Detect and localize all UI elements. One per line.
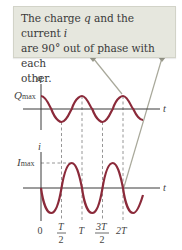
callout-line-1: The charge q and the current i (21, 11, 169, 41)
i-axis-label: i (38, 141, 41, 152)
callout-box: The charge q and the current i are 90° o… (13, 6, 176, 58)
tick-half-T-den: 2 (59, 234, 64, 245)
tick-T: T (79, 225, 86, 236)
callout-line-3: other. (21, 71, 169, 86)
i-time-label: t (163, 182, 167, 193)
tick-2T: 2T (116, 225, 128, 236)
callout-line-2: are 90° out of phase with each (21, 41, 169, 71)
lc-oscillation-diagram: q t Qmax i t Imax 0 T 2 T 3T 2 2T The ch… (0, 0, 182, 250)
qmax-label: Qmax (14, 89, 36, 101)
tick-3half-T-den: 2 (100, 234, 105, 245)
tick-zero: 0 (38, 225, 43, 236)
i-axes (23, 152, 160, 221)
tick-half-T-num: T (58, 221, 65, 232)
tick-3half-T-num: 3T (95, 221, 108, 232)
q-time-label: t (163, 103, 167, 114)
imax-label: Imax (16, 156, 34, 168)
